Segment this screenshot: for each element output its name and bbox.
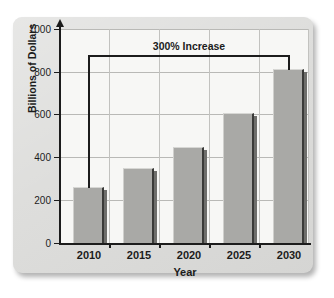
annotation-label: 300% Increase [153,40,225,52]
plot-wrapper: 300% Increase 0 200 400 600 [60,29,310,244]
bar-2015-shadow [154,171,157,243]
gridline-x-5 [308,29,309,243]
y-tick-label-0: 0 [45,238,51,249]
annotation-bracket-right-leg [288,55,290,70]
bar-2015[interactable] [123,168,154,243]
y-axis-arrow-icon [56,19,64,27]
y-tick-label-1000: 1000 [29,24,51,35]
gridline-y-800 [60,72,309,73]
bar-2025[interactable] [223,113,254,243]
y-tick-label-200: 200 [34,195,51,206]
gridline-x-1 [109,29,110,243]
bar-2025-shadow [254,116,257,243]
x-tick-4 [259,243,261,248]
gridline-y-600 [60,114,309,115]
gridline-y-1000 [60,29,309,30]
bar-2030[interactable] [273,69,304,243]
bar-2010-shadow [104,190,107,243]
gridline-x-3 [209,29,210,243]
x-tick-label-2025: 2025 [227,249,251,261]
y-tick-label-800: 800 [34,67,51,78]
chart-figure: Billions of Dollars [0,0,334,298]
x-tick-label-2015: 2015 [127,249,151,261]
y-tick-label-600: 600 [34,109,51,120]
x-tick-3 [209,243,211,248]
x-tick-1 [109,243,111,248]
x-tick-label-2030: 2030 [277,249,301,261]
annotation-bracket-left-leg [88,55,90,188]
gridline-x-4 [259,29,260,243]
y-tick-label-400: 400 [34,152,51,163]
x-tick-2 [159,243,161,248]
annotation-bracket-top [88,55,290,57]
bar-2010[interactable] [73,187,104,243]
x-axis-title: Year [60,266,310,278]
gridline-x-2 [159,29,160,243]
x-axis-line [59,243,311,245]
x-tick-label-2010: 2010 [77,249,101,261]
x-tick-label-2020: 2020 [177,249,201,261]
bar-2020[interactable] [173,147,204,243]
bar-2030-shadow [304,72,307,243]
chart-panel: Billions of Dollars [13,17,313,273]
y-axis-line [59,25,61,244]
bar-2020-shadow [204,150,207,243]
